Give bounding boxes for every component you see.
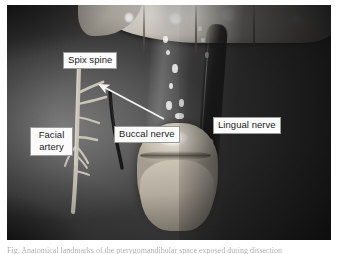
label-buccal-nerve: Buccal nerve <box>114 126 180 143</box>
label-facial-artery-line-2: artery <box>35 141 68 153</box>
figure-caption-sliver: Fig. Anatomical landmarks of the pterygo… <box>7 246 331 254</box>
photo-vignette <box>7 5 331 240</box>
label-lingual-nerve-text: Lingual nerve <box>218 119 276 130</box>
label-spix-spine-text: Spix spine <box>68 54 112 65</box>
figure-root: Spix spine Facial artery Buccal nerve Li… <box>0 0 338 254</box>
label-facial-artery: Facial artery <box>30 127 73 156</box>
clinical-photograph <box>7 5 331 240</box>
label-lingual-nerve: Lingual nerve <box>213 117 281 134</box>
figure-caption-text: Fig. Anatomical landmarks of the pterygo… <box>7 246 282 254</box>
label-facial-artery-line-1: Facial <box>35 129 68 141</box>
label-buccal-nerve-text: Buccal nerve <box>119 128 175 139</box>
label-spix-spine: Spix spine <box>63 52 117 69</box>
